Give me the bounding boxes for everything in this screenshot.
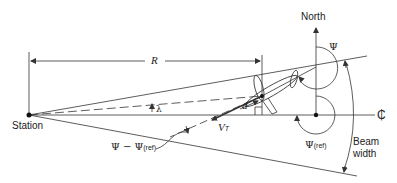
diagram-canvas: North Station R λ d VT Ψ Ψ(ref) Ψ − Ψ(re… (0, 0, 397, 183)
station-dot (27, 113, 32, 118)
north-label: North (301, 12, 325, 22)
station-label: Station (12, 121, 43, 131)
velocity-label: VT (218, 122, 229, 133)
heading-label: Ψ (329, 42, 338, 52)
heading-ref-label: Ψ(ref) (305, 140, 327, 150)
reference-dot (314, 113, 318, 117)
centerline-symbol: ₵ (377, 109, 386, 121)
range-label: R (151, 55, 158, 66)
diagram-lines (0, 0, 397, 183)
lambda-label: λ (156, 105, 162, 114)
distance-label: d (242, 100, 248, 111)
aircraft-dot (260, 94, 264, 98)
heading-diff-label: Ψ − Ψ(ref) (111, 142, 156, 152)
beam-width-label-line2: width (353, 149, 376, 159)
beam-width-label-line1: Beam (353, 137, 379, 147)
velocity-vector (212, 96, 262, 120)
